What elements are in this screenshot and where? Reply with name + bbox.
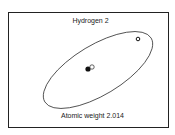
electron-icon <box>136 37 140 41</box>
atomic-weight-caption: Atomic weight 2.014 <box>0 112 175 119</box>
electron-orbit <box>32 17 164 124</box>
neutron-icon <box>90 65 94 69</box>
